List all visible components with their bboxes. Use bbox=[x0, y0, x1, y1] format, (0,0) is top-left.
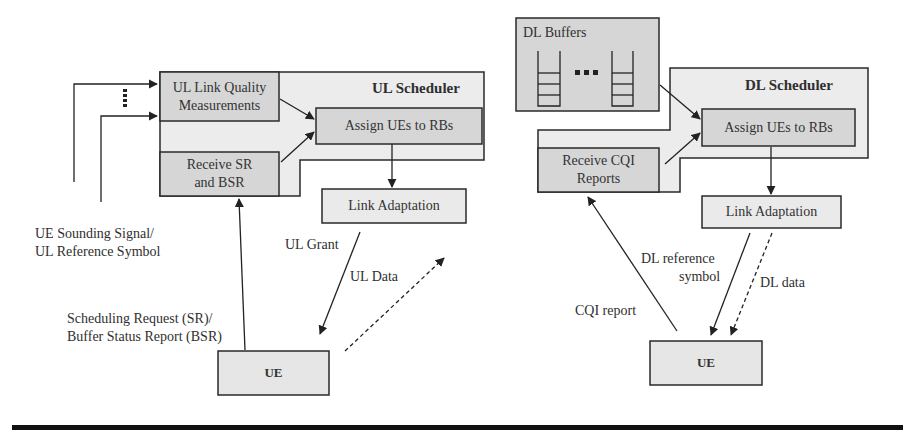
dl-ref-label-line1: DL reference bbox=[641, 250, 715, 267]
bottom-rule bbox=[12, 425, 903, 430]
ul-data-label: UL Data bbox=[350, 268, 398, 285]
ul-ellipsis-dots bbox=[123, 89, 127, 107]
ul-link-quality-line2: Measurements bbox=[179, 97, 261, 115]
ul-receive-line2: and BSR bbox=[194, 174, 244, 192]
dl-scheduler-title: DL Scheduler bbox=[745, 77, 833, 94]
ul-sounding-line-1 bbox=[74, 84, 157, 182]
dl-link-adaptation-box: Link Adaptation bbox=[702, 196, 841, 228]
ul-sounding-label-line2: UL Reference Symbol bbox=[35, 243, 160, 260]
ul-link-quality-box: UL Link Quality Measurements bbox=[160, 72, 279, 121]
dl-ue-box: UE bbox=[650, 341, 762, 385]
dl-buffer-ellipsis bbox=[575, 70, 598, 75]
dl-cqi-report-label: CQI report bbox=[575, 302, 636, 319]
ul-receive-sr-bsr-box: Receive SR and BSR bbox=[160, 152, 279, 196]
ul-link-quality-line1: UL Link Quality bbox=[173, 79, 267, 97]
dl-assign-ues-box: Assign UEs to RBs bbox=[702, 109, 855, 146]
ul-ue-box: UE bbox=[218, 351, 329, 395]
ul-sounding-line-2 bbox=[101, 116, 157, 202]
dl-data-label: DL data bbox=[760, 274, 805, 291]
ul-arrow-sr-bsr bbox=[239, 199, 245, 350]
ul-link-adaptation-box: Link Adaptation bbox=[322, 189, 466, 223]
dl-buffers-title: DL Buffers bbox=[523, 24, 586, 41]
ul-receive-line1: Receive SR bbox=[187, 156, 253, 174]
ul-sr-label-line1: Scheduling Request (SR)/ bbox=[67, 310, 212, 327]
ul-grant-label: UL Grant bbox=[285, 236, 339, 253]
ul-sr-label-line2: Buffer Status Report (BSR) bbox=[67, 328, 222, 345]
dl-ref-label-line2: symbol bbox=[679, 268, 720, 285]
dl-receive-cqi-box: Receive CQI Reports bbox=[538, 148, 659, 192]
ul-sounding-label-line1: UE Sounding Signal/ bbox=[35, 225, 154, 242]
ul-scheduler-title: UL Scheduler bbox=[372, 80, 460, 97]
dl-receive-line1: Receive CQI bbox=[562, 152, 635, 170]
ul-assign-ues-box: Assign UEs to RBs bbox=[316, 108, 482, 144]
dl-receive-line2: Reports bbox=[577, 170, 621, 188]
